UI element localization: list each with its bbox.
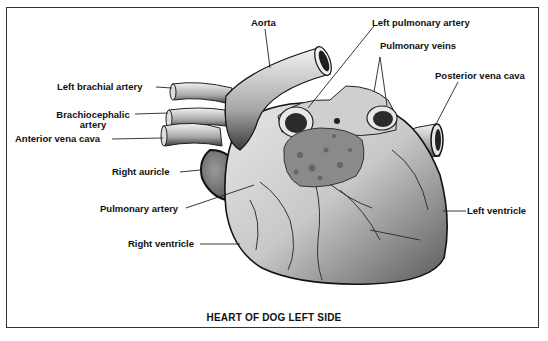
left-auricle-shape <box>284 128 364 187</box>
label-brachiocephalic-line2: artery <box>50 120 136 130</box>
label-pulmonary-artery: Pulmonary artery <box>100 204 178 214</box>
label-posterior-vena-cava: Posterior vena cava <box>435 71 525 81</box>
label-pulmonary-veins: Pulmonary veins <box>380 41 456 51</box>
label-right-auricle: Right auricle <box>112 167 170 177</box>
label-brachiocephalic-artery: Brachiocephalic artery <box>50 110 136 130</box>
diagram-title: HEART OF DOG LEFT SIDE <box>0 312 548 323</box>
heart-illustration <box>0 0 548 341</box>
pulmonary-vein-opening <box>367 106 397 130</box>
label-aorta: Aorta <box>251 18 276 28</box>
label-right-ventricle: Right ventricle <box>128 239 194 249</box>
small-opening <box>334 118 340 124</box>
label-left-pulmonary-artery: Left pulmonary artery <box>372 18 470 28</box>
left-brachial-artery-vessel <box>170 83 232 104</box>
label-anterior-vena-cava: Anterior vena cava <box>15 134 100 144</box>
label-left-ventricle: Left ventricle <box>467 206 526 216</box>
label-left-brachial-artery: Left brachial artery <box>57 82 143 92</box>
anterior-vena-cava-vessel <box>161 123 222 146</box>
